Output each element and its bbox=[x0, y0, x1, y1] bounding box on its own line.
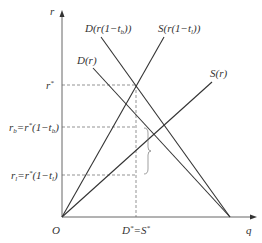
r-l-label: rl=r*(1−tl) bbox=[11, 169, 58, 183]
x-axis-label: q bbox=[246, 224, 252, 236]
supply-taxed-label: S(r(1−tl)) bbox=[158, 22, 201, 36]
y-axis-arrow-icon bbox=[60, 10, 65, 17]
svg-text:D(r(1−tb)): D(r(1−tb)) bbox=[84, 22, 132, 36]
tax-wedge-brace bbox=[144, 128, 151, 174]
demand-taxed-curve bbox=[101, 37, 230, 217]
svg-text:D*=S*: D*=S* bbox=[121, 224, 150, 236]
supply-curve bbox=[62, 82, 212, 217]
tax-wedge-diagram: r q O D(r(1−tb)) S(r(1−tl)) D(r) S(r) r*… bbox=[0, 0, 262, 243]
r-star-label: r* bbox=[46, 79, 54, 91]
demand-curve bbox=[93, 68, 230, 217]
x-axis-arrow-icon bbox=[250, 215, 257, 220]
demand-taxed-label: D(r(1−tb)) bbox=[84, 22, 132, 36]
r-b-label: rb=r*(1−tb) bbox=[9, 121, 59, 135]
y-axis-label: r bbox=[50, 5, 55, 17]
origin-label: O bbox=[52, 224, 60, 236]
supply-label: S(r) bbox=[210, 67, 227, 80]
svg-text:rl=r*(1−tl): rl=r*(1−tl) bbox=[11, 169, 58, 183]
demand-label: D(r) bbox=[76, 54, 97, 67]
svg-text:rb=r*(1−tb): rb=r*(1−tb) bbox=[9, 121, 59, 135]
svg-text:S(r(1−tl)): S(r(1−tl)) bbox=[158, 22, 201, 36]
equilibrium-quantity-label: D*=S* bbox=[121, 224, 150, 236]
y-axis bbox=[60, 10, 65, 217]
svg-text:r*: r* bbox=[46, 79, 54, 91]
